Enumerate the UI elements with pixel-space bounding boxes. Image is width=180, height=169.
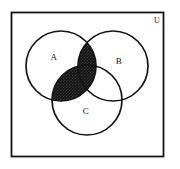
set-label-c: C bbox=[83, 106, 89, 116]
venn-diagram-figure: A B C U bbox=[0, 0, 180, 169]
venn-diagram-canvas: A B C U bbox=[0, 0, 180, 169]
universal-set-label: U bbox=[154, 16, 160, 25]
set-label-a: A bbox=[51, 52, 58, 62]
set-label-b: B bbox=[116, 56, 122, 66]
